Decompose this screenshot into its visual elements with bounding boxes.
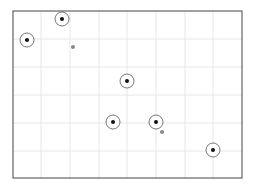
target-dot[interactable] xyxy=(211,148,215,152)
target-dot[interactable] xyxy=(25,38,29,42)
target-dot[interactable] xyxy=(60,17,64,21)
game-board[interactable] xyxy=(0,0,253,187)
grey-marker-dot xyxy=(71,45,75,49)
grey-marker-dot xyxy=(160,130,164,134)
target-dot[interactable] xyxy=(125,79,129,83)
target-dot[interactable] xyxy=(111,120,115,124)
target-dot[interactable] xyxy=(154,120,158,124)
